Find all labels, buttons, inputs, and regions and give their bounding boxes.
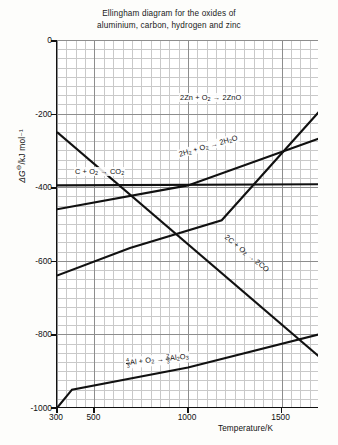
line-carbon-monoxide (57, 132, 318, 357)
ellingham-diagram: Ellingham diagram for the oxides of alum… (0, 0, 338, 445)
y-axis-tick-label: -600 (2, 256, 52, 266)
x-axis-tick-label: 500 (86, 412, 100, 422)
y-axis-tick-label: -200 (2, 109, 52, 119)
x-axis-tick-mark (187, 408, 189, 413)
equation-al-d-sub: 3 (186, 355, 190, 361)
equation-zinc-text-b: → 2ZnO (211, 93, 242, 102)
y-axis-tick-mark (51, 261, 56, 263)
y-axis-tick-mark (51, 334, 56, 336)
y-axis-standard-state-superscript: ⊖ (15, 165, 22, 171)
line-carbon-dioxide (57, 184, 318, 185)
chart-title-line-1: Ellingham diagram for the oxides of (0, 8, 338, 20)
y-axis-tick-label: -800 (2, 329, 52, 339)
y-axis-tick-label: -400 (2, 182, 52, 192)
equation-zinc-oxide: 2Zn + O2 → 2ZnO (179, 93, 242, 102)
x-axis-label: Temperature/K (218, 424, 273, 433)
equation-al-b: → (154, 354, 167, 364)
chart-title-line-2: aluminium, carbon, hydrogen and zinc (0, 20, 338, 32)
equation-co2-a: C + O (75, 167, 95, 176)
equation-carbon-dioxide: C + O2 → CO2 (74, 167, 125, 176)
x-axis-tick-label: 300 (49, 412, 63, 422)
y-axis-units: /kJ mol⁻¹ (17, 129, 27, 165)
y-axis-tick-mark (51, 187, 56, 189)
equation-zinc-text-a: 2Zn + O (180, 93, 208, 102)
x-axis-tick-mark (56, 408, 58, 413)
y-axis-tick-mark (51, 40, 56, 42)
equation-co2-b-sub: 2 (121, 170, 124, 176)
x-axis-tick-label: 1000 (178, 412, 197, 422)
equation-water-d: O (231, 133, 239, 143)
x-axis-tick-mark (281, 408, 283, 413)
line-aluminium-oxide (57, 334, 318, 408)
equation-al-a: Al + O (129, 355, 151, 366)
y-axis-symbol: ΔG (17, 170, 27, 183)
x-axis-tick-mark (93, 408, 95, 413)
equation-co2-b: → CO (98, 167, 121, 176)
y-axis-tick-label: 0 (2, 35, 52, 45)
line-zinc-oxide (57, 112, 318, 276)
chart-title: Ellingham diagram for the oxides of alum… (0, 8, 338, 31)
y-axis-tick-label: -1000 (2, 403, 52, 413)
x-axis-tick-label: 1500 (271, 412, 290, 422)
y-axis-tick-mark (51, 114, 56, 116)
plot-area: 2Zn + O2 → 2ZnO 2H2 + O2 → 2H2O C + O2 →… (56, 40, 318, 408)
